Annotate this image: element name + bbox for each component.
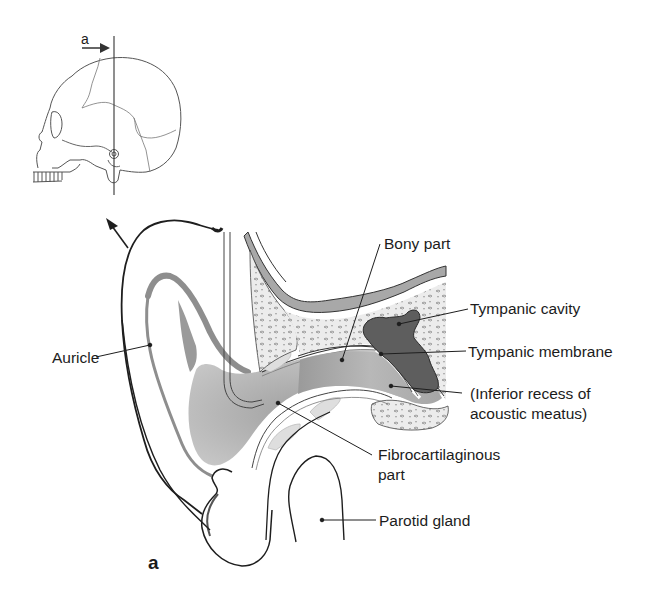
label-parotid-gland: Parotid gland <box>379 511 470 530</box>
label-tympanic-cavity: Tympanic cavity <box>470 299 580 318</box>
label-inferior-recess-line2: acoustic meatus) <box>470 404 587 423</box>
panel-letter: a <box>148 552 159 574</box>
label-inferior-recess-line1: (Inferior recess of <box>470 384 591 403</box>
label-tympanic-membrane: Tympanic membrane <box>468 342 613 361</box>
orientation-arrow-icon <box>106 218 118 230</box>
label-bony-part: Bony part <box>384 234 450 253</box>
label-fibrocartilaginous-line1: Fibrocartilaginous <box>378 445 500 464</box>
skull-inset <box>33 58 181 183</box>
lobule <box>202 469 272 566</box>
label-auricle: Auricle <box>52 348 99 367</box>
ear-anatomy-figure: a Bony part Tympanic cavity Tympanic mem… <box>0 0 656 603</box>
label-fibrocartilaginous-line2: part <box>378 465 405 484</box>
section-marker-label: a <box>81 31 89 47</box>
arrow-right-icon <box>100 43 110 53</box>
